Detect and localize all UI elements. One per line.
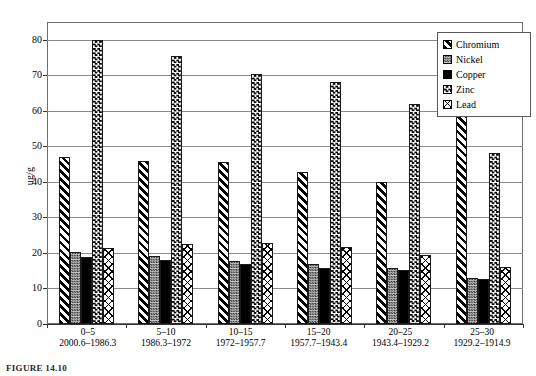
bar-nickel (149, 256, 160, 324)
legend-label: Zinc (456, 85, 474, 95)
legend-swatch-lead (443, 100, 452, 109)
bar-copper (160, 260, 171, 324)
legend-item: Nickel (443, 52, 525, 67)
x-axis-label: 20–251943.4–1929.2 (372, 327, 429, 349)
x-label-year-range: 1986.3–1972 (141, 338, 191, 349)
x-label-depth: 20–25 (372, 327, 429, 338)
bar-copper (240, 264, 251, 324)
x-label-depth: 15–20 (290, 327, 347, 338)
x-axis-labels: 0–52000.6–1986.35–101986.3–197210–151972… (47, 327, 523, 349)
x-tick-mark (523, 324, 524, 328)
bar-nickel (467, 278, 478, 324)
bar-chromium (138, 161, 149, 324)
bar-group (59, 22, 114, 324)
legend-swatch-zinc (443, 85, 452, 94)
y-tick-label: 20 (32, 248, 42, 258)
bar-lead (182, 244, 193, 324)
bar-zinc (92, 40, 103, 324)
x-label-year-range: 1929.2–1914.9 (454, 338, 511, 349)
bar-zinc (171, 56, 182, 324)
bar-chromium (218, 162, 229, 324)
bar-chromium (376, 182, 387, 324)
legend-label: Lead (456, 100, 476, 110)
x-label-year-range: 1943.4–1929.2 (372, 338, 429, 349)
legend: ChromiumNickelCopperZincLead (437, 32, 531, 117)
bar-nickel (229, 261, 240, 324)
legend-swatch-nickel (443, 55, 452, 64)
x-axis-label: 15–201957.7–1943.4 (290, 327, 347, 349)
bar-group (376, 22, 431, 324)
x-label-year-range: 1957.7–1943.4 (290, 338, 347, 349)
figure-caption: FIGURE 14.10 (6, 363, 126, 375)
y-tick-label: 50 (32, 141, 42, 151)
bar-group (218, 22, 273, 324)
x-axis-label: 0–52000.6–1986.3 (59, 327, 116, 349)
legend-item: Zinc (443, 82, 525, 97)
bar-nickel (387, 268, 398, 324)
legend-swatch-chromium (443, 40, 452, 49)
y-tick-label: 40 (32, 177, 42, 187)
bar-zinc (409, 104, 420, 324)
y-tick-label: 80 (32, 35, 42, 45)
legend-label: Copper (456, 70, 485, 80)
y-tick-label: 0 (37, 319, 42, 329)
legend-item: Chromium (443, 37, 525, 52)
bar-group (138, 22, 193, 324)
legend-item: Lead (443, 97, 525, 112)
y-tick-label: 70 (32, 70, 42, 80)
bar-nickel (308, 264, 319, 324)
legend-swatch-copper (443, 70, 452, 79)
bar-chromium (59, 157, 70, 324)
bar-lead (341, 247, 352, 324)
y-tick-label: 60 (32, 106, 42, 116)
legend-label: Chromium (456, 40, 499, 50)
figure-container: ug/g 01020304050607080 0–52000.6–1986.35… (0, 0, 536, 376)
x-axis-label: 5–101986.3–1972 (141, 327, 191, 349)
bar-copper (81, 257, 92, 325)
bar-copper (478, 279, 489, 324)
x-label-year-range: 1972–1957.7 (216, 338, 266, 349)
bar-lead (103, 248, 114, 324)
bar-copper (319, 268, 330, 324)
y-tick-label: 30 (32, 212, 42, 222)
legend-label: Nickel (456, 55, 483, 65)
bar-nickel (70, 252, 81, 324)
bar-lead (500, 267, 511, 324)
x-label-depth: 10–15 (216, 327, 266, 338)
legend-item: Copper (443, 67, 525, 82)
x-label-depth: 5–10 (141, 327, 191, 338)
bar-group (297, 22, 352, 324)
y-tick-label: 10 (32, 283, 42, 293)
bar-lead (420, 255, 431, 324)
x-label-depth: 0–5 (59, 327, 116, 338)
bar-zinc (251, 74, 262, 324)
bar-lead (262, 243, 273, 324)
x-axis-label: 10–151972–1957.7 (216, 327, 266, 349)
bar-zinc (330, 82, 341, 324)
bar-copper (398, 270, 409, 324)
bar-chromium (297, 172, 308, 324)
x-label-depth: 25–30 (454, 327, 511, 338)
bar-zinc (489, 153, 500, 324)
x-label-year-range: 2000.6–1986.3 (59, 338, 116, 349)
x-axis-label: 25–301929.2–1914.9 (454, 327, 511, 349)
